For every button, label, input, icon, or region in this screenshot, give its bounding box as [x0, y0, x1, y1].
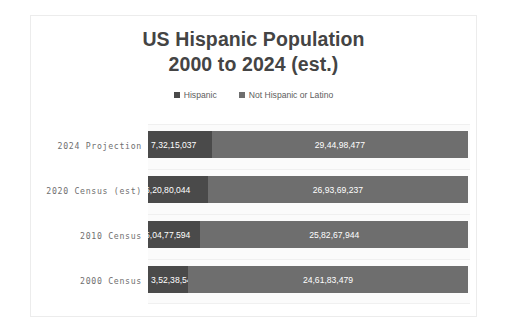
gridline: [148, 124, 470, 125]
chart-title-line2: 2000 to 2024 (est.): [30, 52, 477, 77]
gridline: [148, 169, 470, 170]
bar-row-2000-census[interactable]: 3,52,38,546 24,61,83,479: [148, 266, 468, 293]
bar-segment-not-hispanic[interactable]: 29,44,98,477: [212, 131, 468, 158]
bar-row-2024-projection[interactable]: 7,32,15,037 29,44,98,477: [148, 131, 468, 158]
legend-item-hispanic[interactable]: Hispanic: [174, 90, 217, 100]
bar-segment-hispanic[interactable]: 7,32,15,037: [148, 131, 212, 158]
chart-title: US Hispanic Population 2000 to 2024 (est…: [30, 27, 477, 77]
bar-value-label: 5,04,77,594: [148, 230, 190, 240]
bar-segment-not-hispanic[interactable]: 25,82,67,944: [200, 221, 468, 248]
bar-value-label: 29,44,98,477: [315, 140, 365, 150]
bar-row-2020-census[interactable]: 6,20,80,044 26,93,69,237: [148, 176, 468, 203]
bar-segment-hispanic[interactable]: 3,52,38,546: [148, 266, 188, 293]
bar-value-label: 26,93,69,237: [313, 185, 363, 195]
bar-value-label: 25,82,67,944: [309, 230, 359, 240]
legend-label: Not Hispanic or Latino: [249, 90, 334, 100]
gridline: [148, 259, 470, 260]
gridline: [148, 214, 470, 215]
bar-value-label: 6,20,80,044: [148, 185, 190, 195]
bar-segment-hispanic[interactable]: 6,20,80,044: [148, 176, 208, 203]
bar-value-label: 24,61,83,479: [303, 275, 353, 285]
bar-segment-not-hispanic[interactable]: 24,61,83,479: [188, 266, 468, 293]
bar-value-label: 3,52,38,546: [148, 275, 188, 285]
chart-title-line1: US Hispanic Population: [142, 28, 364, 50]
chart-legend: Hispanic Not Hispanic or Latino: [30, 90, 477, 100]
legend-label: Hispanic: [184, 90, 217, 100]
legend-swatch-icon: [239, 92, 245, 98]
category-label-2000-census: 2000 Census: [38, 276, 142, 286]
bar-segment-hispanic[interactable]: 5,04,77,594: [148, 221, 200, 248]
slide-canvas: US Hispanic Population 2000 to 2024 (est…: [0, 0, 505, 334]
bar-segment-not-hispanic[interactable]: 26,93,69,237: [208, 176, 468, 203]
category-label-2024-projection: 2024 Projection: [38, 141, 142, 151]
chart-plot-wrapper: 2024 Projection 7,32,15,037 29,44,98,477…: [38, 124, 470, 304]
category-label-2010-census: 2010 Census: [38, 231, 142, 241]
legend-swatch-icon: [174, 92, 180, 98]
category-label-2020-census: 2020 Census (est): [38, 186, 142, 196]
gridline: [148, 303, 470, 304]
bar-row-2010-census[interactable]: 5,04,77,594 25,82,67,944: [148, 221, 468, 248]
legend-item-not-hispanic-or-latino[interactable]: Not Hispanic or Latino: [239, 90, 334, 100]
bar-value-label: 7,32,15,037: [148, 140, 196, 150]
